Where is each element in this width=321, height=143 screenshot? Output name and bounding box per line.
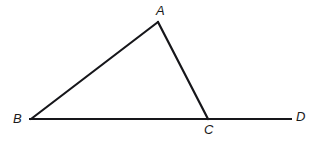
segment-ac-line xyxy=(158,22,208,119)
vertex-label-a: A xyxy=(156,4,165,17)
vertex-label-b: B xyxy=(13,112,22,125)
geometry-canvas xyxy=(0,0,321,143)
vertex-label-c: C xyxy=(204,123,213,136)
vertex-label-d: D xyxy=(296,110,305,123)
geometry-figure: A B C D xyxy=(0,0,321,143)
segment-ab-line xyxy=(31,22,158,119)
